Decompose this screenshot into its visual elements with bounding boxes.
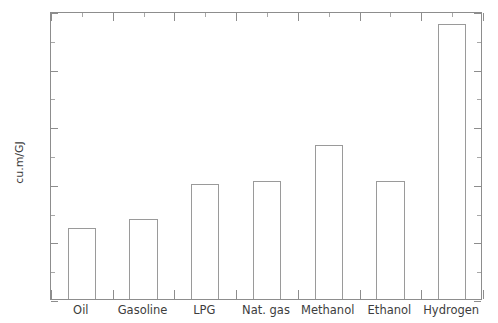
x-tick-label: Gasoline <box>118 303 168 317</box>
chart-figure: cu.m/GJ 00.020.040.060.080.1 OilGasoline… <box>0 0 498 323</box>
y-tick-major-right <box>474 301 481 302</box>
x-tick-major <box>483 290 484 299</box>
x-tick-label: Methanol <box>301 303 354 317</box>
x-tick-label: Ethanol <box>368 303 412 317</box>
bar-lpg <box>191 184 219 299</box>
bar-ethanol <box>376 181 404 299</box>
x-tick-label: LPG <box>193 303 215 317</box>
x-axis-tick-labels: OilGasolineLPGNat. gasMethanolEthanolHyd… <box>50 303 482 323</box>
x-tick-label: Nat. gas <box>242 303 290 317</box>
plot-area <box>50 12 482 300</box>
bar-oil <box>68 228 96 299</box>
bar-hydrogen <box>438 24 466 299</box>
bar-methanol <box>315 145 343 299</box>
y-tick-major <box>51 301 58 302</box>
x-tick-label: Oil <box>73 303 88 317</box>
bar-gasoline <box>129 219 157 299</box>
bars-layer <box>51 13 481 299</box>
bar-nat-gas <box>253 181 281 299</box>
x-tick-label: Hydrogen <box>423 303 479 317</box>
x-tick-major-top <box>483 13 484 21</box>
